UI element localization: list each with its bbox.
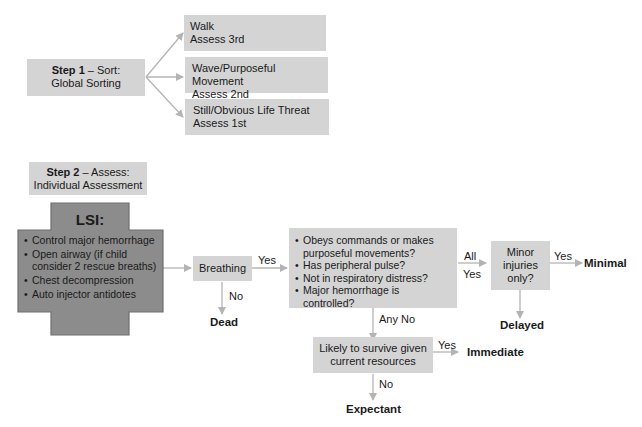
- survive-box: Likely to survive given current resource…: [313, 337, 433, 373]
- lsi-title: LSI:: [51, 211, 129, 228]
- lsi-item: Auto injector antidotes: [24, 288, 164, 300]
- minor-line: Minor: [491, 246, 550, 259]
- assessment-questions-box: Obeys commands or makes purposeful movem…: [289, 228, 457, 308]
- lsi-item: Open airway (if child consider 2 rescue …: [24, 248, 164, 272]
- breathing-yes-label: Yes: [258, 254, 276, 267]
- assessment-question: Major hemorrhage is controlled?: [295, 284, 453, 309]
- all-yes-label-2: Yes: [463, 268, 481, 281]
- minor-yes-label: Yes: [554, 250, 572, 263]
- any-no-label: Any No: [379, 313, 415, 326]
- breathing-label: Breathing: [199, 262, 246, 274]
- outcome-dead: Dead: [210, 316, 238, 328]
- minor-injuries-box: Minor injuries only?: [491, 241, 550, 290]
- breathing-no-label: No: [229, 290, 243, 303]
- breathing-box: Breathing: [193, 256, 252, 281]
- assessment-question: Obeys commands or makes purposeful movem…: [295, 234, 453, 259]
- lsi-item: Chest decompression: [24, 274, 164, 286]
- lsi-list: Control major hemorrhage Open airway (if…: [24, 234, 164, 300]
- minor-line: only?: [491, 272, 550, 285]
- assessment-question: Has peripheral pulse?: [295, 259, 453, 272]
- lsi-item: Control major hemorrhage: [24, 234, 164, 246]
- survive-no-label: No: [379, 378, 393, 391]
- survive-yes-label: Yes: [438, 339, 456, 352]
- outcome-delayed: Delayed: [500, 319, 544, 331]
- outcome-expectant: Expectant: [346, 403, 401, 415]
- assessment-question: Not in respiratory distress?: [295, 272, 453, 285]
- all-yes-label-1: All: [464, 250, 476, 263]
- survive-line: Likely to survive given: [313, 342, 433, 355]
- outcome-immediate: Immediate: [467, 346, 524, 358]
- outcome-minimal: Minimal: [584, 257, 627, 269]
- minor-line: injuries: [491, 259, 550, 272]
- survive-line: current resources: [313, 355, 433, 368]
